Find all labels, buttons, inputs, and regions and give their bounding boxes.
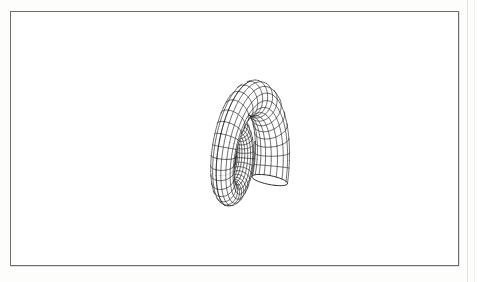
figure-page: Three-dimensional wireframe mesh renderi… <box>0 0 477 282</box>
page-edge-line-secondary <box>474 0 475 282</box>
page-edge-line <box>467 0 468 282</box>
figure-frame <box>10 11 459 266</box>
